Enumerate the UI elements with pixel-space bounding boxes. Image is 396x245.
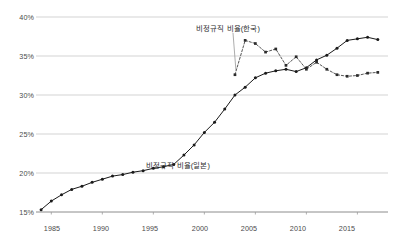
data-point-marker (80, 185, 83, 188)
data-point-marker (325, 54, 328, 57)
data-point-marker (274, 48, 277, 51)
data-point-marker (254, 76, 257, 79)
y-axis-tick-label: 40% (8, 13, 34, 22)
data-point-marker (264, 51, 267, 54)
data-point-marker (335, 47, 338, 50)
data-point-marker (366, 36, 369, 39)
y-axis-tick-label: 25% (8, 130, 34, 139)
x-axis-tick-label: 2015 (330, 224, 364, 233)
data-point-marker (366, 72, 369, 75)
data-point-marker (142, 169, 145, 172)
y-axis-tick-label: 20% (8, 169, 34, 178)
chart-container: 40% 35% 30% 25% 20% 15% 1985 1990 1995 2… (0, 0, 396, 245)
data-point-marker (70, 188, 73, 191)
data-point-marker (50, 200, 53, 203)
data-point-marker (60, 193, 63, 196)
x-axis-tick-label: 2000 (183, 224, 217, 233)
data-point-marker (285, 64, 288, 67)
data-point-marker (305, 68, 308, 71)
data-point-marker (244, 86, 247, 89)
data-point-marker (121, 173, 124, 176)
x-axis-tick-label: 2005 (232, 224, 266, 233)
data-point-marker (356, 37, 359, 40)
data-point-marker (295, 55, 298, 58)
data-point-marker (346, 75, 349, 78)
data-point-marker (315, 61, 318, 64)
data-point-marker (203, 131, 206, 134)
series-annotation-korea: 비정규직 비율(한국) (196, 22, 260, 33)
y-axis-tick-label: 35% (8, 52, 34, 61)
data-point-marker (91, 181, 94, 184)
y-axis-tick-label: 30% (8, 91, 34, 100)
x-axis-tick-label: 1995 (133, 224, 167, 233)
data-point-marker (274, 69, 277, 72)
x-axis-tick-label: 2010 (281, 224, 315, 233)
series-annotation-japan: 비정규직 비율(일본) (146, 159, 210, 170)
data-point-marker (234, 73, 237, 76)
x-axis-tick-label: 1990 (84, 224, 118, 233)
series-line-korea (235, 40, 378, 76)
data-point-marker (193, 143, 196, 146)
annotation-leader-line (233, 33, 236, 71)
data-point-marker (346, 39, 349, 42)
data-point-marker (336, 73, 339, 76)
data-point-marker (264, 72, 267, 75)
data-point-marker (376, 71, 379, 74)
data-point-marker (182, 154, 185, 157)
y-axis-tick-label: 15% (8, 208, 34, 217)
series-line-japan (41, 37, 378, 209)
data-point-marker (295, 70, 298, 73)
data-point-marker (40, 208, 43, 211)
data-point-marker (376, 38, 379, 41)
data-point-marker (111, 175, 114, 178)
data-point-marker (284, 68, 287, 71)
data-point-marker (131, 171, 134, 174)
data-point-marker (101, 178, 104, 181)
line-chart-plot (0, 0, 396, 245)
data-point-marker (356, 74, 359, 77)
x-axis-tick-label: 1985 (35, 224, 69, 233)
data-point-marker (254, 42, 257, 45)
data-point-marker (223, 108, 226, 111)
data-point-marker (213, 121, 216, 124)
data-point-marker (244, 39, 247, 42)
data-point-marker (325, 68, 328, 71)
data-point-marker (233, 94, 236, 97)
